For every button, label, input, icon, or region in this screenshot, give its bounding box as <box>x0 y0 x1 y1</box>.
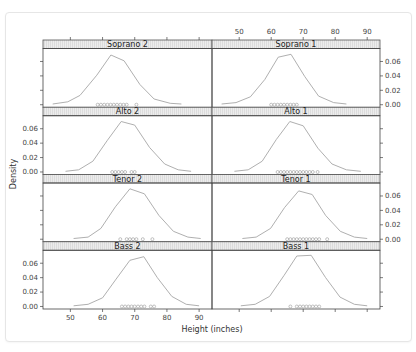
density-line <box>53 55 182 104</box>
x-tick-label: 50 <box>66 314 75 322</box>
y-tick-label: 0.06 <box>22 125 38 133</box>
rug-point <box>116 103 119 106</box>
x-tick-label: 80 <box>331 28 340 36</box>
y-axis-title: Density <box>9 159 18 190</box>
rug-point <box>140 305 143 308</box>
x-tick-label: 60 <box>98 314 107 322</box>
rug-point <box>279 103 282 106</box>
rug-point <box>96 103 99 106</box>
rug-point <box>289 171 292 174</box>
rug-point <box>295 171 298 174</box>
rug-point <box>311 305 314 308</box>
rug-point <box>99 103 102 106</box>
rug-point <box>120 171 123 174</box>
y-tick-label: 0.04 <box>385 207 401 215</box>
y-tick-label: 0.04 <box>22 139 38 147</box>
rug-point <box>295 305 298 308</box>
panel-frame <box>212 49 380 108</box>
strip-label: Bass 2 <box>114 242 140 251</box>
rug-point <box>308 305 311 308</box>
rug-point <box>283 171 286 174</box>
rug-point <box>276 103 279 106</box>
rug-point <box>295 103 298 106</box>
rug-point <box>289 305 292 308</box>
rug-point <box>143 305 146 308</box>
density-line <box>242 191 367 239</box>
rug-point <box>305 238 308 241</box>
panel-soprano-2: Soprano 2 <box>43 40 212 107</box>
rug-point <box>292 103 295 106</box>
rug-point <box>120 305 123 308</box>
x-tick-label: 50 <box>235 28 244 36</box>
rug-point <box>273 103 276 106</box>
panel-tenor-2: Tenor 2 <box>43 175 212 242</box>
rug-point <box>127 305 130 308</box>
panel-frame <box>212 116 380 175</box>
y-tick-label: 0.02 <box>385 221 401 229</box>
rug-point <box>135 103 138 106</box>
rug-point <box>117 171 120 174</box>
rug-point <box>119 103 122 106</box>
rug-point <box>270 103 273 106</box>
y-tick-label: 0.04 <box>22 274 38 282</box>
rug-point <box>316 171 319 174</box>
strip-label: Alto 1 <box>284 107 307 116</box>
rug-point <box>295 238 298 241</box>
rug-point <box>106 103 109 106</box>
rug-point <box>302 305 305 308</box>
panel-bass-2: Bass 2 <box>43 242 212 309</box>
rug-point <box>302 171 305 174</box>
rug-point <box>289 103 292 106</box>
panel-frame <box>212 183 380 242</box>
rug-point <box>119 238 122 241</box>
rug-point <box>318 305 321 308</box>
rug-point <box>141 238 144 241</box>
y-tick-label: 0.06 <box>385 192 401 200</box>
x-tick-label: 70 <box>299 28 308 36</box>
x-tick-label: 70 <box>130 314 139 322</box>
density-line <box>74 257 200 306</box>
panel-frame <box>43 49 212 108</box>
rug-point <box>279 171 282 174</box>
y-tick-label: 0.00 <box>385 236 401 244</box>
rug-point <box>299 238 302 241</box>
rug-point <box>315 305 318 308</box>
strip-label: Tenor 2 <box>112 175 142 184</box>
rug-point <box>149 305 152 308</box>
y-tick-label: 0.00 <box>385 101 401 109</box>
x-tick-label: 90 <box>195 314 204 322</box>
density-line <box>222 54 347 104</box>
y-tick-label: 0.02 <box>22 288 38 296</box>
rug-point <box>153 305 156 308</box>
rug-point <box>124 305 127 308</box>
density-line <box>241 255 367 305</box>
strip-label: Alto 2 <box>116 107 139 116</box>
strip-label: Tenor 1 <box>280 175 310 184</box>
rug-point <box>103 103 106 106</box>
rug-point <box>125 103 128 106</box>
rug-point <box>292 238 295 241</box>
y-tick-label: 0.06 <box>22 260 38 268</box>
rug-point <box>305 305 308 308</box>
y-tick-label: 0.06 <box>385 58 401 66</box>
panel-bass-1: Bass 1 <box>212 242 380 309</box>
rug-point <box>305 171 308 174</box>
rug-point <box>286 103 289 106</box>
y-tick-label: 0.00 <box>22 303 38 311</box>
rug-point <box>299 305 302 308</box>
strip-label: Bass 1 <box>283 242 309 251</box>
panel-frame <box>43 250 212 309</box>
rug-point <box>311 171 314 174</box>
rug-point <box>133 305 136 308</box>
rug-point <box>124 171 127 174</box>
rug-point <box>133 171 136 174</box>
rug-point <box>151 238 154 241</box>
y-tick-label: 0.02 <box>22 154 38 162</box>
rug-point <box>125 238 128 241</box>
rug-point <box>109 103 112 106</box>
rug-point <box>137 305 140 308</box>
density-chart: Soprano 2Soprano 1Alto 2Alto 1Tenor 2Ten… <box>0 0 416 352</box>
panel-alto-1: Alto 1 <box>212 107 380 174</box>
rug-point <box>130 171 133 174</box>
x-tick-label: 90 <box>363 28 372 36</box>
